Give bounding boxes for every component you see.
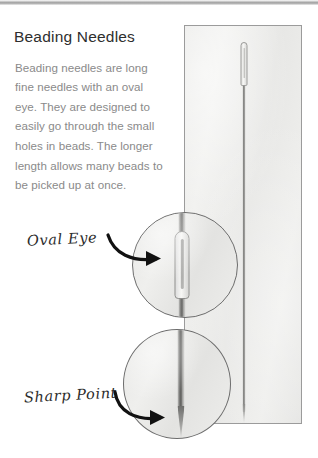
- magnifier-oval-eye: [132, 212, 238, 318]
- magnifier-sheen: [124, 330, 230, 438]
- page-root: Beading Needles Beading needles are long…: [0, 0, 318, 458]
- body-paragraph: Beading needles are long fine needles wi…: [15, 58, 167, 195]
- needle-shaft: [243, 60, 246, 412]
- magnifier-sheen: [133, 213, 237, 317]
- needle-eye: [241, 42, 248, 86]
- needle-point: [243, 404, 246, 424]
- page-top-edge: [0, 0, 318, 5]
- page-title: Beading Needles: [14, 28, 135, 46]
- annotation-label-sharp-point: Sharp Point: [24, 385, 118, 406]
- annotation-label-oval-eye: Oval Eye: [27, 229, 98, 249]
- magnifier-sharp-point: [123, 329, 231, 439]
